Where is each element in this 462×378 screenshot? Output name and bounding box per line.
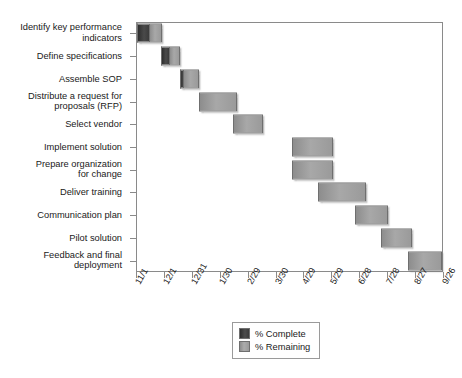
legend-item-remaining: % Remaining — [239, 340, 310, 353]
gantt-bar — [137, 24, 162, 43]
gantt-bar — [292, 160, 333, 179]
bar-segment-complete — [137, 24, 150, 43]
gantt-bar — [292, 138, 333, 157]
bar-segment-remaining — [355, 206, 388, 225]
gantt-bar — [199, 92, 237, 111]
category-label: Communication plan — [0, 210, 122, 221]
bar-segment-remaining — [183, 69, 200, 88]
bar-segment-remaining — [149, 24, 162, 43]
gantt-chart: Identify key performance indicatorsDefin… — [0, 0, 462, 378]
legend: % Complete % Remaining — [232, 322, 320, 359]
legend-swatch-complete-icon — [239, 328, 250, 339]
bar-segment-remaining — [292, 138, 333, 157]
y-axis-tick — [130, 124, 136, 125]
category-label: Identify key performance indicators — [0, 23, 122, 44]
y-axis-tick — [130, 215, 136, 216]
legend-item-complete: % Complete — [239, 327, 310, 340]
category-label: Assemble SOP — [0, 74, 122, 85]
bar-segment-remaining — [199, 92, 237, 111]
category-label: Distribute a request for proposals (RFP) — [0, 91, 122, 112]
y-axis-tick — [130, 79, 136, 80]
legend-label-complete: % Complete — [255, 329, 306, 339]
category-label: Implement solution — [0, 142, 122, 153]
category-label: Select vendor — [0, 119, 122, 130]
y-axis-tick — [130, 56, 136, 57]
gantt-bar — [318, 183, 365, 202]
legend-swatch-remaining-icon — [239, 341, 250, 352]
bar-segment-remaining — [233, 115, 263, 134]
gantt-bar — [233, 115, 263, 134]
bar-segment-remaining — [318, 183, 365, 202]
y-axis-tick — [130, 147, 136, 148]
gantt-bar — [355, 206, 388, 225]
gantt-bar — [161, 47, 180, 66]
category-label: Pilot solution — [0, 233, 122, 244]
y-axis-tick — [130, 102, 136, 103]
gantt-bar — [381, 228, 413, 247]
legend-label-remaining: % Remaining — [255, 342, 310, 352]
bar-segment-remaining — [381, 228, 413, 247]
y-axis-tick — [130, 33, 136, 34]
bar-segment-remaining — [169, 47, 179, 66]
y-axis-tick — [130, 261, 136, 262]
category-label: Feedback and final deployment — [0, 250, 122, 271]
bar-segment-remaining — [292, 160, 333, 179]
y-axis-tick — [130, 170, 136, 171]
category-label: Deliver training — [0, 187, 122, 198]
category-axis: Identify key performance indicatorsDefin… — [0, 22, 130, 272]
y-axis-tick — [130, 192, 136, 193]
y-axis-tick — [130, 238, 136, 239]
gantt-bar — [180, 69, 200, 88]
category-label: Prepare organization for change — [0, 159, 122, 180]
bar-segment-complete — [161, 47, 169, 66]
category-label: Define specifications — [0, 51, 122, 62]
